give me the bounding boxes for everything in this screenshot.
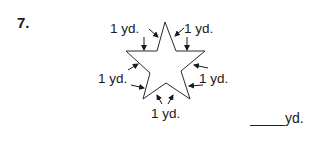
- label-left: 1 yd.: [98, 71, 127, 86]
- label-top-right: 1 yd.: [184, 21, 213, 36]
- answer-area: yd.: [250, 110, 304, 126]
- answer-blank[interactable]: [250, 110, 285, 126]
- arrow-icon: [131, 85, 144, 88]
- label-top-left: 1 yd.: [110, 21, 139, 36]
- arrow-icon: [128, 64, 138, 70]
- label-bottom: 1 yd.: [151, 106, 180, 121]
- arrow-icon: [149, 29, 158, 37]
- arrow-icon: [168, 95, 173, 104]
- answer-unit: yd.: [285, 110, 304, 126]
- arrow-icon: [157, 95, 162, 104]
- label-right: 1 yd.: [199, 71, 228, 86]
- arrow-icon: [194, 65, 208, 68]
- arrow-icon: [175, 28, 184, 36]
